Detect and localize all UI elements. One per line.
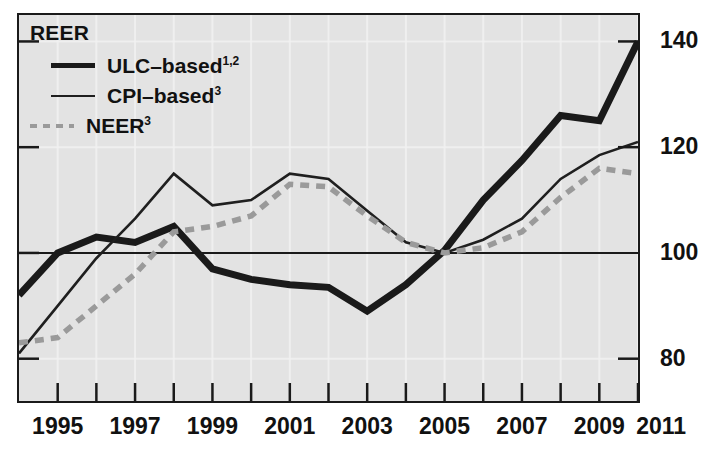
- legend-text-ulc: ULC–based: [107, 54, 223, 77]
- x-tick-label-2003: 2003: [342, 415, 393, 438]
- x-tick-label-2011: 2011: [636, 415, 686, 438]
- legend-label-ulc-based: ULC–based1,2: [107, 55, 239, 76]
- legend-entry-cpi-based: CPI–based3: [30, 80, 239, 110]
- x-tick-label-1997: 1997: [109, 415, 160, 438]
- chart-legend: REER ULC–based1,2 CPI–based3 NEER3: [30, 22, 239, 140]
- legend-label-neer: NEER3: [86, 115, 151, 136]
- y-tick-label-120: 120: [660, 135, 698, 158]
- x-tick-label-1999: 1999: [187, 415, 238, 438]
- legend-entry-ulc-based: ULC–based1,2: [30, 50, 239, 80]
- legend-text-neer: NEER: [86, 114, 144, 137]
- legend-title: REER: [30, 22, 239, 43]
- y-tick-label-140: 140: [660, 29, 698, 52]
- legend-sup-neer: 3: [144, 114, 151, 128]
- legend-text-cpi: CPI–based: [107, 84, 214, 107]
- dashed-line-swatch: [30, 117, 74, 133]
- x-tick-label-2009: 2009: [574, 415, 625, 438]
- x-tick-label-2007: 2007: [496, 415, 547, 438]
- y-tick-label-100: 100: [660, 241, 698, 264]
- y-tick-label-80: 80: [660, 347, 686, 370]
- x-tick-label-1995: 1995: [32, 415, 83, 438]
- legend-sup-ulc: 1,2: [223, 54, 240, 68]
- legend-label-cpi-based: CPI–based3: [107, 85, 221, 106]
- x-tick-label-2001: 2001: [264, 415, 315, 438]
- thick-line-swatch: [51, 57, 95, 73]
- legend-sup-cpi: 3: [214, 84, 221, 98]
- thin-line-swatch: [51, 87, 95, 103]
- chart-figure: REER ULC–based1,2 CPI–based3 NEER3 80100…: [0, 0, 718, 452]
- x-tick-label-2005: 2005: [419, 415, 470, 438]
- legend-entry-neer: NEER3: [30, 110, 239, 140]
